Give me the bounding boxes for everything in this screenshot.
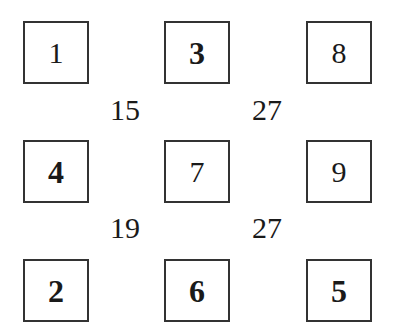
cell-r3c3: 5 bbox=[306, 259, 372, 322]
cell-r1c3: 8 bbox=[306, 21, 372, 84]
cell-value: 5 bbox=[331, 275, 347, 307]
sum-bottom-right: 27 bbox=[237, 211, 297, 245]
cell-value: 8 bbox=[332, 38, 347, 68]
cell-r2c2: 7 bbox=[164, 140, 230, 203]
cell-r3c1: 2 bbox=[23, 259, 89, 322]
cell-value: 9 bbox=[332, 157, 347, 187]
cell-value: 6 bbox=[189, 275, 205, 307]
cell-r2c1: 4 bbox=[23, 140, 89, 203]
cell-r2c3: 9 bbox=[306, 140, 372, 203]
cell-value: 2 bbox=[48, 275, 64, 307]
cell-value: 1 bbox=[49, 38, 64, 68]
cell-r1c2: 3 bbox=[164, 21, 230, 84]
cell-value: 3 bbox=[189, 37, 205, 69]
cell-r1c1: 1 bbox=[23, 21, 89, 84]
cell-r3c2: 6 bbox=[164, 259, 230, 322]
cell-value: 7 bbox=[190, 157, 205, 187]
sum-top-right: 27 bbox=[237, 93, 297, 127]
sum-bottom-left: 19 bbox=[95, 211, 155, 245]
cell-value: 4 bbox=[48, 156, 64, 188]
sum-top-left: 15 bbox=[95, 93, 155, 127]
